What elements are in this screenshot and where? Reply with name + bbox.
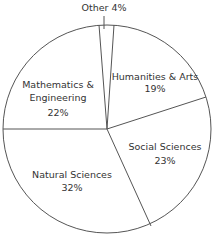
label-social-name: Social Sciences (129, 141, 202, 152)
label-math-name-1: Mathematics & (22, 79, 94, 90)
label-humanities-name: Humanities & Arts (112, 71, 199, 82)
label-social-pct: 23% (154, 155, 175, 166)
pie-chart: Other 4% Humanities & Arts 19% Social Sc… (0, 0, 212, 241)
label-math-name-2: Engineering (30, 92, 87, 103)
label-natural-name: Natural Sciences (32, 169, 112, 180)
label-natural-pct: 32% (61, 182, 82, 193)
label-math-pct: 22% (47, 107, 68, 118)
label-other: Other 4% (81, 2, 126, 13)
label-humanities-pct: 19% (144, 83, 165, 94)
